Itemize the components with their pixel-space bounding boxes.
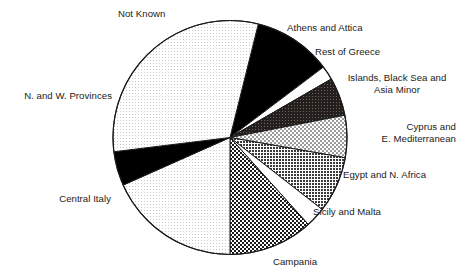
slice-label-central-italy: Central Italy: [5, 193, 111, 205]
slice-label-athens-and-attica: Athens and Attica: [287, 22, 363, 34]
slice-label-rest-of-greece: Rest of Greece: [315, 46, 380, 58]
slice-label-campania: Campania: [273, 256, 317, 268]
slice-label-cyprus-e-mediterranean: Cyprus and E. Mediterranean: [348, 121, 456, 146]
slice-label-islands-black-sea-asia-minor: Islands, Black Sea and Asia Minor: [336, 72, 458, 97]
slice-label-not-known: Not Known: [118, 8, 165, 20]
slice-label-egypt-n-africa: Egypt and N. Africa: [343, 169, 426, 181]
slice-label-sicily-and-malta: Sicily and Malta: [313, 206, 381, 218]
pie-chart: Not Known Athens and Attica Rest of Gree…: [0, 0, 460, 278]
slice-label-n-and-w-provinces: N. and W. Provinces: [0, 90, 112, 102]
